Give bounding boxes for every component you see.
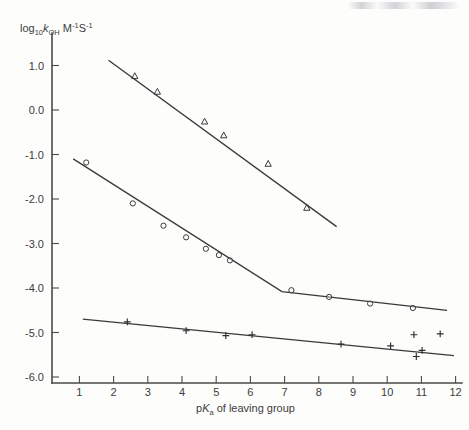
data-point-marker (227, 258, 232, 263)
data-point-marker (216, 253, 221, 258)
plot-canvas: 1.00.0-1.0-2.0-3.0-4.0-5.0-6.0 123456789… (0, 0, 469, 430)
data-point-marker (411, 331, 418, 338)
x-tick-label: 10 (381, 386, 393, 398)
y-tick-label: -6.0 (25, 371, 44, 383)
series-fit-line-0 (109, 60, 337, 226)
series-fit-lines (73, 60, 454, 355)
x-axis-ticks: 123456789101112 (76, 376, 461, 398)
y-axis-title-sub10: 10 (35, 28, 43, 37)
y-axis-title-m-exp: -1 (72, 21, 79, 30)
x-tick-label: 12 (449, 386, 461, 398)
y-axis-title-m: M (63, 22, 72, 34)
y-tick-label: 0.0 (29, 104, 44, 116)
x-tick-label: 7 (282, 386, 288, 398)
x-tick-label: 3 (145, 386, 151, 398)
x-tick-label: 4 (179, 386, 185, 398)
x-axis-title: pKa of leaving group (196, 402, 295, 417)
series-fit-line-1 (73, 159, 447, 310)
data-point-marker (84, 160, 89, 165)
y-axis-title-s: S (79, 22, 86, 34)
data-point-marker (410, 305, 415, 310)
data-point-marker (221, 132, 227, 138)
data-point-marker (327, 294, 332, 299)
y-tick-label: 1.0 (29, 60, 44, 72)
data-point-marker (154, 88, 160, 94)
data-point-marker (249, 331, 256, 338)
data-point-marker (304, 205, 310, 211)
y-axis-title-s-exp: -1 (86, 21, 93, 30)
data-point-marker (130, 201, 135, 206)
series-fit-line-2 (83, 319, 454, 356)
y-axis-ticks: 1.00.0-1.0-2.0-3.0-4.0-5.0-6.0 (25, 60, 59, 384)
y-tick-label: -2.0 (25, 193, 44, 205)
data-point-marker (387, 343, 394, 350)
chart-figure: 1.00.0-1.0-2.0-3.0-4.0-5.0-6.0 123456789… (0, 0, 469, 430)
x-tick-label: 6 (247, 386, 253, 398)
data-point-marker (437, 330, 444, 337)
y-axis-title-log: log (20, 22, 35, 34)
data-point-marker (265, 160, 271, 166)
x-tick-label: 11 (416, 386, 427, 398)
x-tick-label: 2 (111, 386, 117, 398)
x-tick-label: 5 (213, 386, 219, 398)
data-point-marker (289, 288, 294, 293)
data-point-marker (201, 118, 207, 124)
series-data-markers (84, 73, 444, 360)
data-point-marker (183, 327, 190, 334)
y-axis-title-oh: OH (49, 28, 60, 37)
y-tick-label: -1.0 (25, 149, 44, 161)
x-axis-title-rest: of leaving group (214, 402, 295, 414)
x-tick-label: 9 (350, 386, 356, 398)
x-tick-label: 1 (76, 386, 82, 398)
data-point-marker (184, 235, 189, 240)
data-point-marker (368, 301, 373, 306)
y-axis-title: log10kOH M-1S-1 (20, 21, 93, 37)
y-tick-label: -3.0 (25, 238, 44, 250)
x-tick-label: 8 (316, 386, 322, 398)
data-point-marker (203, 246, 208, 251)
y-tick-label: -4.0 (25, 282, 44, 294)
y-tick-label: -5.0 (25, 327, 44, 339)
data-point-marker (413, 353, 420, 360)
data-point-marker (338, 341, 345, 348)
data-point-marker (132, 73, 138, 79)
data-point-marker (161, 223, 166, 228)
